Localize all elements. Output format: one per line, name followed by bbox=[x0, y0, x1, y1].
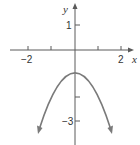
parabola-graph: −2 2 x y 1 −3 bbox=[0, 0, 140, 145]
x-axis-arrow-icon bbox=[128, 48, 134, 53]
x-axis: −2 2 x bbox=[10, 46, 137, 65]
y-axis-label: y bbox=[62, 3, 68, 15]
x-tick-label-2: 2 bbox=[118, 54, 124, 65]
x-tick-label-neg2: −2 bbox=[21, 54, 33, 65]
y-tick-label-1: 1 bbox=[66, 20, 72, 31]
y-axis-arrow-icon bbox=[73, 3, 78, 9]
left-curve-arrow-icon bbox=[37, 126, 43, 135]
y-tick-label-neg3: −3 bbox=[62, 116, 74, 127]
x-axis-label: x bbox=[131, 53, 137, 65]
right-curve-arrow-icon bbox=[108, 126, 114, 135]
